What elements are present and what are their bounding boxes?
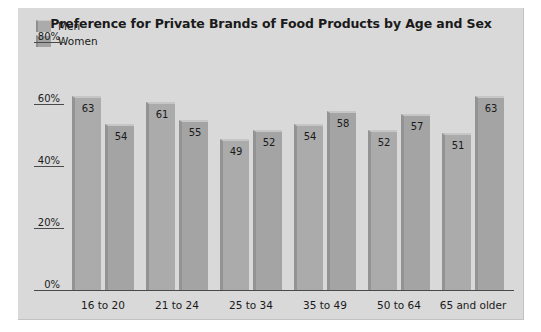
bar-value-label: 54 xyxy=(297,131,323,142)
category-label-65-and-older: 65 and older xyxy=(432,299,514,311)
bar-women-65-and-older: 63 xyxy=(475,96,504,291)
chart-panel: Preference for Private Brands of Food Pr… xyxy=(18,8,524,320)
y-axis-label-60: 60% xyxy=(38,93,60,104)
bar-value-label: 54 xyxy=(108,131,134,142)
bar-value-label: 63 xyxy=(75,103,101,114)
category-label-16-to-20: 16 to 20 xyxy=(62,299,144,311)
bar-men-25-to-34: 49 xyxy=(220,139,249,291)
category-label-25-to-34: 25 to 34 xyxy=(210,299,292,311)
bar-men-21-to-24: 61 xyxy=(146,102,175,291)
plot-area: 0% 20% 40% 60% 80% 635461554952545852575… xyxy=(66,43,514,291)
bar-value-label: 55 xyxy=(182,127,208,138)
y-axis-label-40: 40% xyxy=(38,155,60,166)
bar-value-label: 49 xyxy=(223,146,249,157)
bar-value-label: 52 xyxy=(256,137,282,148)
bar-value-label: 51 xyxy=(445,140,471,151)
bar-women-50-to-64: 57 xyxy=(401,114,430,291)
y-axis-label-20: 20% xyxy=(38,217,60,228)
bar-men-16-to-20: 63 xyxy=(72,96,101,291)
bar-value-label: 57 xyxy=(404,121,430,132)
y-axis-tick-line-20 xyxy=(34,228,64,229)
y-axis-label-80: 80% xyxy=(38,31,60,42)
bar-value-label: 63 xyxy=(478,103,504,114)
bar-value-label: 58 xyxy=(330,118,356,129)
bar-women-16-to-20: 54 xyxy=(105,124,134,291)
bar-women-35-to-49: 58 xyxy=(327,111,356,291)
bar-value-label: 61 xyxy=(149,109,175,120)
bar-women-25-to-34: 52 xyxy=(253,130,282,291)
legend-label-men: Men xyxy=(58,20,80,32)
x-axis-baseline xyxy=(46,290,514,291)
y-axis-label-0: 0% xyxy=(44,279,60,290)
bar-men-50-to-64: 52 xyxy=(368,130,397,291)
bar-men-65-and-older: 51 xyxy=(442,133,471,291)
y-axis-tick-line-40 xyxy=(34,166,64,167)
category-label-50-to-64: 50 to 64 xyxy=(358,299,440,311)
y-axis-tick-line-60 xyxy=(34,104,64,105)
category-label-35-to-49: 35 to 49 xyxy=(284,299,366,311)
category-label-21-to-24: 21 to 24 xyxy=(136,299,218,311)
bar-men-35-to-49: 54 xyxy=(294,124,323,291)
bar-women-21-to-24: 55 xyxy=(179,120,208,291)
y-axis-tick-line-80 xyxy=(34,42,64,43)
bar-value-label: 52 xyxy=(371,137,397,148)
